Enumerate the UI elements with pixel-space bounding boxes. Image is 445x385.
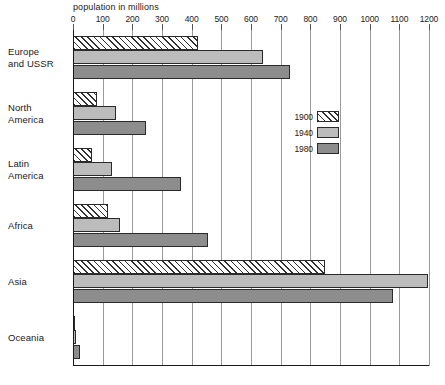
bar-1980-latin-america bbox=[73, 177, 181, 191]
legend-item-1980: 1980 bbox=[287, 142, 339, 155]
axis-title: population in millions bbox=[73, 2, 159, 12]
bar-1980-africa bbox=[73, 233, 208, 247]
legend-label-1980: 1980 bbox=[287, 144, 313, 154]
bar-1940-africa bbox=[73, 218, 120, 232]
x-tick-label-900: 900 bbox=[333, 14, 347, 24]
legend-item-1940: 1940 bbox=[287, 126, 339, 139]
bar-1900-africa bbox=[73, 204, 108, 218]
bar-1980-oceania bbox=[73, 345, 80, 359]
bar-1940-north-america bbox=[73, 106, 116, 120]
bar-1900-asia bbox=[73, 260, 325, 274]
plot-area bbox=[73, 30, 429, 366]
y-axis-line bbox=[73, 30, 74, 366]
x-tick-label-0: 0 bbox=[71, 14, 76, 24]
x-tick-label-100: 100 bbox=[96, 14, 110, 24]
population-bar-chart: population in millions 01002003004005006… bbox=[0, 0, 445, 385]
bar-1900-europe-and-ussr bbox=[73, 36, 198, 50]
bar-1940-asia bbox=[73, 274, 428, 288]
bar-1980-europe-and-ussr bbox=[73, 65, 290, 79]
bar-1980-north-america bbox=[73, 121, 146, 135]
bar-1900-latin-america bbox=[73, 148, 92, 162]
category-label-africa: Africa bbox=[8, 220, 33, 232]
legend-label-1940: 1940 bbox=[287, 128, 313, 138]
x-tick-label-1000: 1000 bbox=[360, 14, 379, 24]
category-label-oceania: Oceania bbox=[8, 332, 44, 344]
x-tick-label-700: 700 bbox=[274, 14, 288, 24]
x-tick-label-500: 500 bbox=[214, 14, 228, 24]
gridline-1200 bbox=[429, 30, 430, 366]
x-tick-label-600: 600 bbox=[244, 14, 258, 24]
category-label-asia: Asia bbox=[8, 276, 27, 288]
bar-1940-europe-and-ussr bbox=[73, 50, 263, 64]
x-tick-label-800: 800 bbox=[303, 14, 317, 24]
category-label-north-america: North America bbox=[8, 102, 44, 125]
category-label-latin-america: Latin America bbox=[8, 158, 44, 181]
bar-1900-north-america bbox=[73, 92, 97, 106]
bar-1940-latin-america bbox=[73, 162, 112, 176]
legend-swatch-1940 bbox=[317, 127, 339, 138]
plot-frame bbox=[73, 30, 429, 366]
bar-1980-asia bbox=[73, 289, 393, 303]
legend-label-1900: 1900 bbox=[287, 112, 313, 122]
legend-item-1900: 1900 bbox=[287, 110, 339, 123]
legend-swatch-1900 bbox=[317, 111, 339, 122]
legend: 190019401980 bbox=[287, 110, 339, 158]
x-tick-label-200: 200 bbox=[125, 14, 139, 24]
category-label-europe-and-ussr: Europe and USSR bbox=[8, 46, 54, 69]
x-tick-label-300: 300 bbox=[155, 14, 169, 24]
x-tick-label-400: 400 bbox=[185, 14, 199, 24]
legend-swatch-1980 bbox=[317, 143, 339, 154]
x-tick-label-1200: 1200 bbox=[420, 14, 439, 24]
x-tick-label-1100: 1100 bbox=[390, 14, 408, 24]
